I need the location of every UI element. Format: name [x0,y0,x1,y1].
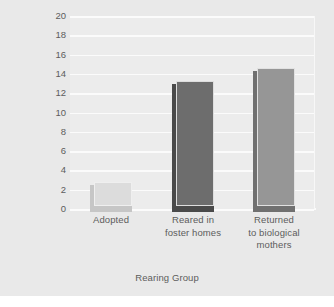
y-axis-tick-label: 4 [40,165,66,175]
bar-body [257,68,295,206]
x-axis-category-label-line: foster homes [152,227,234,240]
plot-area [70,16,315,209]
gridline [70,55,314,57]
bar-body [94,182,132,206]
y-axis-tick-label: 10 [40,108,66,118]
y-axis-tick-label: 2 [40,185,66,195]
y-axis-tick-label: 18 [40,30,66,40]
x-axis-category-label: Returnedto biologicalmothers [233,214,315,252]
y-axis-tick-label: 16 [40,50,66,60]
y-axis-tick-label: 12 [40,88,66,98]
bar[interactable] [253,68,295,209]
y-axis-tick-label: 8 [40,127,66,137]
x-axis-category-label-line: Adopted [70,214,152,227]
y-axis-tick-label: 14 [40,69,66,79]
x-axis-category-label-line: to biological [233,227,315,240]
gridline [70,16,314,18]
y-axis-tick-label: 0 [40,204,66,214]
y-axis-tick-label: 20 [40,11,66,21]
bar-body [176,81,214,206]
gridline [70,35,314,37]
x-axis-category-label: Adopted [70,214,152,227]
x-axis-category-labels: AdoptedReared infoster homesReturnedto b… [70,214,315,262]
bar[interactable] [90,182,132,209]
x-axis-category-label-line: Returned [233,214,315,227]
bar-chart-figure: Percentage with High Maladjustment Score… [0,0,334,296]
y-axis-tick-labels: 20181614121086420 [40,16,66,209]
y-axis-tick-label: 6 [40,146,66,156]
x-axis-category-label: Reared infoster homes [152,214,234,239]
x-axis-title: Rearing Group [0,272,334,283]
x-axis-category-label-line: Reared in [152,214,234,227]
y-axis-title: Percentage with High Maladjustment Score… [8,0,38,46]
bar[interactable] [172,81,214,209]
x-axis-category-label-line: mothers [233,239,315,252]
